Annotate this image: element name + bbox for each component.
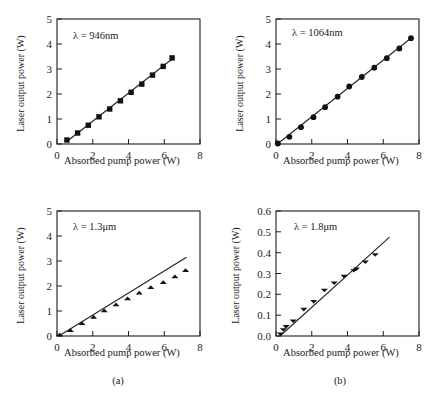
svg-text:0.5: 0.5 — [257, 226, 271, 238]
svg-text:0.6: 0.6 — [257, 205, 271, 217]
subfigure-caption-a: (a) — [58, 375, 178, 386]
svg-text:0.1: 0.1 — [257, 309, 271, 321]
x-axis-label: Absorbed pump power (W) — [34, 347, 210, 358]
data-series-fitline — [277, 38, 411, 145]
y-tick-labels: 0.00.1 0.20.3 0.40.5 0.6 — [257, 205, 271, 342]
svg-text:0.4: 0.4 — [257, 247, 271, 259]
x-axis-ticks — [57, 139, 200, 144]
svg-text:1: 1 — [47, 305, 53, 317]
wavelength-annotation-1064nm: λ = 1064nm — [292, 27, 343, 38]
svg-text:0: 0 — [266, 138, 272, 150]
svg-text:0.2: 0.2 — [257, 288, 271, 300]
svg-text:4: 4 — [47, 38, 53, 50]
svg-text:3: 3 — [47, 63, 53, 75]
plot-panel-946nm: 01 2 3 4 5 02 46 8 — [0, 0, 219, 199]
y-axis-label: Laser output power (W) — [15, 216, 26, 336]
data-series-markers — [56, 268, 189, 336]
plot-panel-1p3um: 01 2 3 4 5 02 46 8 — [0, 192, 219, 391]
y-axis-ticks — [276, 19, 281, 144]
svg-text:2: 2 — [266, 88, 272, 100]
y-axis-label: Laser output power (W) — [15, 24, 26, 144]
y-axis-ticks — [57, 19, 62, 144]
x-axis-label: Absorbed pump power (W) — [253, 347, 429, 358]
svg-text:1: 1 — [47, 113, 53, 125]
svg-text:5: 5 — [266, 13, 272, 25]
y-axis-ticks — [276, 211, 281, 336]
x-axis-label: Absorbed pump power (W) — [253, 155, 429, 166]
plot-panel-1p8um: 0.00.1 0.20.3 0.40.5 0.6 02 46 8 — [219, 192, 438, 391]
svg-text:0.3: 0.3 — [257, 268, 271, 280]
svg-text:4: 4 — [47, 230, 53, 242]
data-series-fitline — [280, 237, 390, 336]
svg-text:4: 4 — [266, 38, 272, 50]
y-axis-ticks — [57, 211, 62, 336]
svg-text:0: 0 — [47, 138, 53, 150]
svg-text:5: 5 — [47, 205, 53, 217]
x-axis-label: Absorbed pump power (W) — [34, 155, 210, 166]
svg-text:0: 0 — [47, 330, 53, 342]
y-axis-label: Laser output power (W) — [234, 24, 245, 144]
svg-text:3: 3 — [266, 63, 272, 75]
svg-text:5: 5 — [47, 13, 53, 25]
x-axis-ticks — [57, 331, 200, 336]
x-axis-ticks — [276, 139, 419, 144]
x-axis-ticks — [276, 331, 419, 336]
data-series-markers — [277, 253, 379, 336]
data-series-fitline — [59, 257, 187, 336]
svg-text:0.0: 0.0 — [257, 330, 271, 342]
y-tick-labels: 01 2 3 4 5 — [47, 13, 53, 150]
y-axis-label: Laser output power (W) — [230, 216, 241, 336]
subfigure-caption-b: (b) — [280, 375, 400, 386]
y-tick-labels: 01 2 3 4 5 — [266, 13, 272, 150]
svg-text:2: 2 — [47, 88, 53, 100]
wavelength-annotation-1p3um: λ = 1.3μm — [73, 221, 116, 232]
svg-text:1: 1 — [266, 113, 272, 125]
wavelength-annotation-946nm: λ = 946nm — [73, 30, 118, 41]
svg-text:3: 3 — [47, 255, 53, 267]
svg-text:2: 2 — [47, 280, 53, 292]
y-tick-labels: 01 2 3 4 5 — [47, 205, 53, 342]
wavelength-annotation-1p8um: λ = 1.8μm — [294, 221, 337, 232]
data-series-markers — [64, 55, 175, 143]
plot-panel-1064nm: 01 2 3 4 5 02 46 8 — [219, 0, 438, 199]
figure-root: 01 2 3 4 5 02 46 8 — [0, 0, 438, 399]
